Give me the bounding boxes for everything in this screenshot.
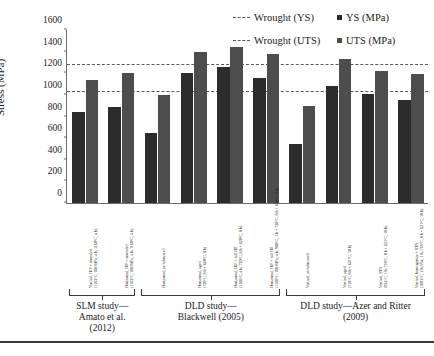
bar-uts [230,47,243,203]
group-bracket-tick [102,296,103,300]
dashed-line-icon [233,40,250,41]
y-axis-tick-label: 1200 [43,58,67,68]
x-axis-category-label: Horizontal, as-fabricated [161,249,166,288]
x-axis-category-label: Horizontal, aged(720°C, 8 h + 620°C, 8 h… [197,247,207,288]
chart-legend: Wrought (YS) YS (MPa) Wrought (UTS) UTS … [233,12,429,46]
group-bracket-tick [211,296,212,300]
x-axis-category-label: Vertical, STA(954°C, 1 h; 718°C, 8 h + 6… [378,226,388,288]
x-axis-category-label: Vertical, HIP + annealed(1163°C, 100 MPa… [88,229,98,288]
bar-uts [158,95,171,203]
dashed-line-icon [233,17,250,18]
plot-area: 02004006008001000120014001600 [66,30,428,204]
group-study-label: DLD study— Blackwell (2005) [136,301,286,323]
y-axis-tick-label: 800 [48,102,67,112]
bar-series-container [67,30,428,203]
y-axis-tick-label: 400 [48,145,67,155]
bar-ys [253,78,266,203]
group-bracket-tick [356,296,357,300]
y-axis-tick-label: 1600 [43,15,67,25]
legend-item-wrought-uts: Wrought (UTS) [233,35,337,46]
group-study-label: DLD study—Azer and Ritter (2009) [281,301,431,323]
y-axis-tick-label: 0 [57,188,67,198]
x-axis-category-label: Vertical, as-fabricated [305,253,310,288]
bar-ys [289,144,302,203]
group-bracket [69,289,135,296]
x-axis-category-labels: Vertical, HIP + annealed(1163°C, 100 MPa… [66,206,428,290]
y-axis-tick-label: 200 [48,166,67,176]
square-marker-icon [337,38,342,43]
stress-comparison-chart: Stress (MPa) 020040060080010001200140016… [0,0,434,356]
bar-uts [267,54,280,203]
legend-item-ys: YS (MPa) [337,12,429,23]
square-marker-icon [337,15,342,20]
group-bracket [141,289,280,296]
bar-uts [86,80,99,203]
legend-label-wrought-ys: Wrought (YS) [254,12,314,23]
y-axis-title: Stress (MPa) [0,59,6,116]
bar-ys [181,73,194,203]
legend-label-wrought-uts: Wrought (UTS) [254,35,320,46]
bar-uts [303,106,316,203]
bar-ys [145,133,158,203]
bar-ys [398,100,411,203]
legend-item-wrought-ys: Wrought (YS) [233,12,337,23]
x-axis-category-label: Vertical, aged(718°C, 8 h + 621°C, 10 h) [342,245,352,288]
legend-item-uts: UTS (MPa) [337,35,429,46]
bar-uts [339,59,352,203]
bar-uts [194,52,207,203]
x-axis-category-label: Horizontal, HIP + full HT(1160°C, 4 h; 7… [233,226,243,288]
group-bracket [286,289,425,296]
bar-ys [362,94,375,203]
bar-uts [411,74,424,203]
y-axis-tick-label: 1000 [43,80,67,90]
y-axis-tick-label: 1400 [43,37,67,47]
legend-label-uts: UTS (MPa) [346,35,395,46]
bar-uts [375,71,388,203]
figure-bottom-rule [0,341,434,343]
x-axis-category-label: Vertical, homogenize + STA(1093°C, 2 h; … [414,209,424,288]
bar-ys [326,86,339,203]
bar-ys [72,112,85,203]
x-axis-category-label: Horizontal, HIP + annealed(1163°C, 100 M… [124,229,134,288]
legend-label-ys: YS (MPa) [346,12,389,23]
bar-uts [122,73,135,203]
x-axis-category-label: Horizontal, HIP + full HT(1160°C, 100 MP… [269,188,279,288]
bar-ys [108,107,121,203]
y-axis-tick-label: 600 [48,123,67,133]
bar-ys [217,67,230,203]
